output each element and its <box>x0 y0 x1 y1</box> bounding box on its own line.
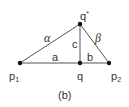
label-beta: β <box>94 31 101 45</box>
point-q <box>78 61 82 65</box>
label-q: q <box>77 70 83 82</box>
label-p1: p1 <box>9 70 19 83</box>
triangle-diagram: α β c a b q* p1 q p2 (b) <box>0 0 129 107</box>
caption: (b) <box>58 89 71 101</box>
point-p1 <box>18 61 22 65</box>
label-b: b <box>87 51 93 63</box>
label-alpha: α <box>44 31 51 45</box>
label-p2: p2 <box>111 70 121 83</box>
label-qstar: q* <box>80 10 89 22</box>
label-a: a <box>52 51 59 63</box>
label-c: c <box>72 38 78 50</box>
point-p2 <box>107 61 111 65</box>
point-qstar <box>78 22 82 26</box>
